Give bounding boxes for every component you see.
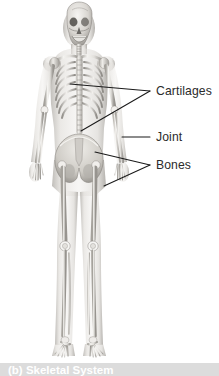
label-joint: Joint	[156, 130, 183, 144]
label-bones: Bones	[156, 158, 191, 172]
cervical-spine	[77, 44, 82, 56]
ankle-joints	[61, 337, 97, 344]
caption-band: (b) Skeletal System	[0, 363, 219, 376]
figure-canvas: Cartilages Joint Bones	[0, 0, 219, 376]
spine	[77, 56, 83, 134]
labels: Cartilages Joint Bones	[156, 84, 212, 172]
label-cartilages: Cartilages	[156, 84, 212, 98]
skeletal-system-figure: Cartilages Joint Bones (b) Skeletal Syst…	[0, 0, 219, 376]
figure-caption: (b) Skeletal System	[8, 364, 113, 376]
